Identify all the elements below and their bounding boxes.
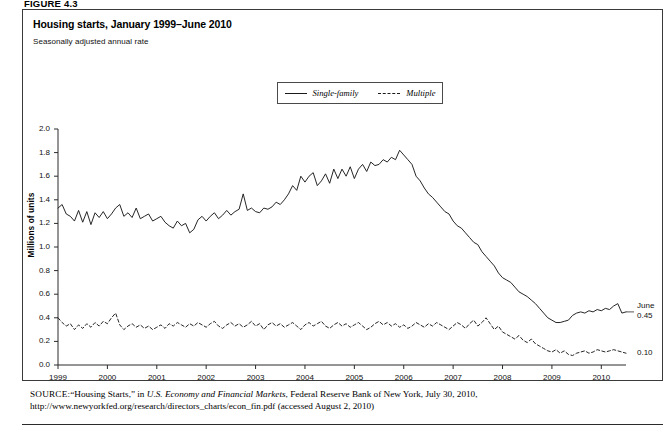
legend-item-single-family: Single-family (285, 88, 359, 98)
x-tick-label: 2008 (480, 373, 526, 382)
y-tick-label: 1.2 (24, 218, 50, 227)
figure-container: FIGURE 4.3 Housing starts, January 1999–… (0, 0, 671, 433)
single-family-end-value: 0.45 (637, 311, 654, 322)
x-tick-label: 1999 (35, 373, 81, 382)
y-tick-label: 1.6 (24, 171, 50, 180)
legend-label-multiple: Multiple (406, 88, 435, 98)
y-tick-label: 0.0 (24, 360, 50, 369)
bottom-rule (22, 424, 663, 425)
x-tick-label: 2009 (529, 373, 575, 382)
figure-number: FIGURE 4.3 (24, 0, 78, 9)
x-tick-label: 2007 (430, 373, 476, 382)
y-tick-label: 1.8 (24, 148, 50, 157)
source-prefix: SOURCE: (30, 389, 70, 399)
chart-legend: Single-family Multiple (277, 82, 443, 104)
chart-subtitle: Seasonally adjusted annual rate (33, 37, 148, 46)
y-tick-label: 0.6 (24, 289, 50, 298)
chart-title: Housing starts, January 1999–June 2010 (33, 18, 232, 30)
y-tick-label: 1.4 (24, 195, 50, 204)
x-tick-label: 2006 (381, 373, 427, 382)
x-tick-label: 2000 (84, 373, 130, 382)
x-tick-label: 2005 (331, 373, 377, 382)
y-tick-label: 0.8 (24, 266, 50, 275)
x-tick-label: 2004 (282, 373, 328, 382)
y-tick-label: 1.0 (24, 242, 50, 251)
chart-frame (22, 9, 663, 381)
x-tick-label: 2003 (233, 373, 279, 382)
legend-item-multiple: Multiple (378, 88, 435, 98)
x-tick-label: 2001 (134, 373, 180, 382)
y-tick-label: 0.4 (24, 313, 50, 322)
legend-line-solid-icon (285, 93, 307, 94)
y-tick-label: 2.0 (24, 124, 50, 133)
x-tick-label: 2010 (578, 373, 624, 382)
legend-label-single-family: Single-family (313, 88, 359, 98)
multiple-end-label: 0.10 (637, 348, 653, 359)
legend-line-dashed-icon (378, 93, 400, 94)
source-note: SOURCE:“Housing Starts,” in U.S. Economy… (30, 388, 650, 413)
y-tick-label: 0.2 (24, 336, 50, 345)
single-family-end-label: June 0.45 (637, 301, 654, 322)
single-family-end-month: June (637, 301, 654, 312)
x-tick-label: 2002 (183, 373, 229, 382)
source-text-1: “Housing Starts,” in (70, 389, 147, 399)
source-publication: U.S. Economy and Financial Markets (147, 389, 286, 399)
